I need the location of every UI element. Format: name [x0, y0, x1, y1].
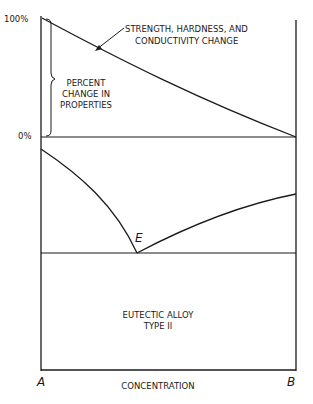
bracket-label-line1: PERCENT	[56, 78, 116, 88]
x-axis-right-label: B	[287, 377, 295, 387]
x-axis-title: CONCENTRATION	[108, 381, 208, 391]
x-axis-left-label: A	[37, 377, 45, 387]
liquidus-left-curve	[41, 149, 137, 253]
curve-annotation-line1: STRENGTH, HARDNESS, AND	[125, 24, 248, 34]
bracket-label-line2: CHANGE IN	[56, 89, 116, 99]
percent-bracket	[46, 19, 55, 136]
y-axis-zero-label: 0%	[18, 131, 32, 141]
liquidus-right-curve	[137, 194, 296, 253]
diagram-canvas	[0, 0, 313, 404]
bracket-label-line3: PROPERTIES	[56, 100, 116, 110]
region-label-line1: EUTECTIC ALLOY	[108, 310, 208, 320]
y-axis-top-label: 100%	[4, 14, 28, 24]
region-label-line2: TYPE II	[108, 321, 208, 331]
annotation-arrow	[97, 28, 124, 49]
eutectic-point-label: E	[135, 233, 143, 243]
curve-annotation-line2: CONDUCTIVITY CHANGE	[135, 36, 238, 46]
